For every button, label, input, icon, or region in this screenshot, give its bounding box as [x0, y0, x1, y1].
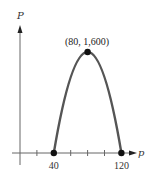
vertex-label: (80, 1,600) — [65, 36, 109, 48]
parabola-curve — [54, 52, 122, 153]
x-axis-label: p — [138, 147, 145, 158]
parabola-chart: P p (80, 1,600) 40 120 — [0, 0, 146, 177]
x-tick-label-120: 120 — [114, 160, 129, 171]
point-root-120 — [118, 150, 124, 156]
y-axis-label: P — [16, 10, 24, 21]
x-tick-label-40: 40 — [49, 160, 59, 171]
y-axis-arrow-icon — [18, 25, 23, 33]
point-vertex — [84, 49, 90, 55]
point-root-40 — [51, 150, 57, 156]
x-axis-arrow-icon — [129, 151, 137, 156]
